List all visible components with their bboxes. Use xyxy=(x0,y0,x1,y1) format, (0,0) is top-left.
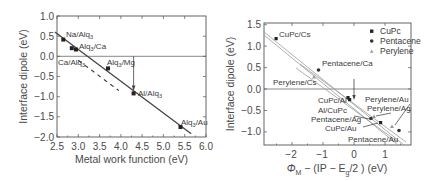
y-tick-label: 0.5 xyxy=(247,62,261,73)
figure: 1.0 0.5 0.0 −0.5 −1.0 −1.5 −2.0 2.5 3.0 … xyxy=(0,0,429,181)
label-pentacene-ca: Pentacene/Ca xyxy=(322,59,373,68)
left-data-points xyxy=(61,38,182,129)
y-tick-label: 1.0 xyxy=(40,11,54,22)
right-chart: 1.5 1.0 0.5 0.0 −0.5 −1.0 −2 −1 0 1 Inte… xyxy=(224,19,421,176)
y-tick-label: 0.0 xyxy=(247,84,261,95)
label-al-alq3: Al/Alq3 xyxy=(138,89,162,99)
label-al-cupc: Al/CuPc xyxy=(318,106,347,115)
x-tick-label: −2 xyxy=(285,149,297,160)
y-tick-label: 1.5 xyxy=(247,19,261,30)
left-y-axis-title: Interface dipole (eV) xyxy=(17,29,29,124)
right-x-tick-labels: −2 −1 0 1 xyxy=(285,149,388,160)
point-cupc-au xyxy=(379,121,382,124)
x-tick-label: 0 xyxy=(351,149,357,160)
left-y-tick-labels: 1.0 0.5 0.0 −0.5 −1.0 −1.5 −2.0 xyxy=(34,11,54,143)
legend-label-cupc: CuPc xyxy=(380,26,402,36)
label-cupc-au: CuPc/Au xyxy=(325,124,357,133)
point-pentacene-au xyxy=(397,129,401,133)
left-x-axis-title: Metal work function (eV) xyxy=(75,153,188,165)
y-tick-label: −0.5 xyxy=(241,105,261,116)
point-al-cupc xyxy=(348,98,351,101)
right-arrow-head xyxy=(352,95,355,100)
label-pentacene-ag: Pentacene/Ag xyxy=(311,115,361,124)
label-cupc-cs: CuPc/Cs xyxy=(279,30,311,39)
x-tick-label: 2.5 xyxy=(50,141,64,152)
legend-marker-cupc xyxy=(370,30,373,33)
point-ca-alq3 xyxy=(70,46,74,50)
point-pentacene-ag xyxy=(369,117,373,121)
x-tick-label: 3.0 xyxy=(71,141,85,152)
y-tick-label: −1.0 xyxy=(241,126,261,137)
right-x-axis-title: ΦM − (IP − Eg/2 ) (eV) xyxy=(287,162,388,177)
right-y-axis-title: Interface dipole (eV) xyxy=(224,37,236,132)
left-annotations: Na/Alq3 Alq3/Ca Ca/Alq3 Alq3/Mg Al/Alq3 … xyxy=(58,30,208,128)
point-perylene-au xyxy=(390,125,394,129)
right-legend: CuPc Pentacene Perylene xyxy=(370,26,421,56)
legend-marker-perylene xyxy=(370,50,374,53)
x-tick-label: 5.0 xyxy=(156,141,170,152)
label-perylene-au: Perylene/Au xyxy=(365,95,409,104)
y-tick-label: −0.5 xyxy=(34,71,54,82)
label-alq3-ca: Alq3/Ca xyxy=(79,42,107,52)
x-tick-label: 1 xyxy=(382,149,388,160)
point-cupc-cs xyxy=(275,37,278,40)
y-tick-label: −1.5 xyxy=(34,111,54,122)
x-tick-label: 4.0 xyxy=(114,141,128,152)
label-na-alq3: Na/Alq3 xyxy=(66,30,93,40)
point-na-alq3 xyxy=(61,38,65,42)
right-y-tick-labels: 1.5 1.0 0.5 0.0 −0.5 −1.0 xyxy=(241,19,261,137)
y-tick-label: 0.5 xyxy=(40,31,54,42)
label-pentacene-au: Pentacene/Au xyxy=(348,135,398,144)
left-x-tick-labels: 2.5 3.0 3.5 4.0 4.5 5.0 5.5 6.0 xyxy=(50,141,213,152)
legend-label-pentacene: Pentacene xyxy=(380,36,421,46)
point-pentacene-ca xyxy=(317,68,321,72)
label-ca-alq3: Ca/Alq3 xyxy=(58,58,85,68)
left-fit-line xyxy=(55,32,191,134)
y-tick-label: −1.0 xyxy=(34,91,54,102)
x-tick-label: −1 xyxy=(316,149,328,160)
x-tick-label: 3.5 xyxy=(93,141,107,152)
leader-perylene-ag xyxy=(376,113,391,116)
label-alq3-mg: Alq3/Mg xyxy=(107,58,135,68)
point-alq3-mg xyxy=(106,66,110,70)
y-tick-label: 1.0 xyxy=(247,41,261,52)
label-perylene-ag: Perylene/Ag xyxy=(367,104,411,113)
legend-label-perylene: Perylene xyxy=(380,46,414,56)
legend-marker-pentacene xyxy=(370,39,374,43)
point-alq3-ca xyxy=(74,48,78,52)
point-al-alq3 xyxy=(132,91,136,95)
x-tick-label: 4.5 xyxy=(135,141,149,152)
label-alq3-au: Alq3/Au xyxy=(181,118,208,128)
label-cupc-al: CuPc/Al xyxy=(318,96,347,105)
y-tick-label: 0.0 xyxy=(40,51,54,62)
point-perylene-ag xyxy=(372,115,376,119)
label-perylene-cs: Perylene/Cs xyxy=(273,78,317,87)
left-chart: 1.0 0.5 0.0 −0.5 −1.0 −1.5 −2.0 2.5 3.0 … xyxy=(17,11,213,166)
x-tick-label: 6.0 xyxy=(199,141,213,152)
x-tick-label: 5.5 xyxy=(178,141,192,152)
